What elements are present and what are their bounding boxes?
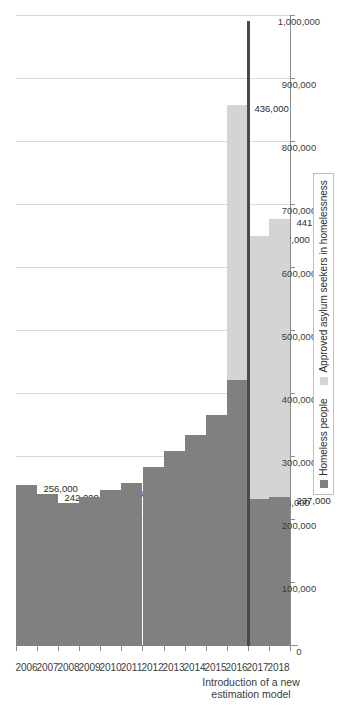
category-axis-tick (227, 646, 228, 651)
value-axis-tick-label: 300,000 (282, 457, 316, 468)
bar-segment (37, 494, 58, 646)
bar-segment (248, 236, 269, 499)
estimation-model-break-line (247, 21, 250, 646)
bar-segment (248, 499, 269, 646)
legend-label: Approved asylum seekers in homelessness (318, 180, 329, 372)
bar-value-label: 237,000 (296, 494, 330, 505)
category-axis-tick (206, 646, 207, 651)
category-axis-tick (16, 646, 17, 651)
annotation-line-1: Introduction of a new (185, 676, 317, 688)
category-axis-tick (58, 646, 59, 651)
bar-row (185, 16, 206, 646)
bar-segment (121, 483, 142, 646)
bar-segment (185, 435, 206, 646)
value-axis-tick-label: 200,000 (282, 520, 316, 531)
bar-row (164, 16, 185, 646)
value-axis-tick-label: 400,000 (282, 394, 316, 405)
category-axis-tick (269, 646, 270, 651)
legend-swatch-icon (320, 480, 328, 488)
category-label-2018: 2018 (262, 662, 296, 673)
bar-row (143, 16, 164, 646)
category-axis-tick (37, 646, 38, 651)
value-axis-tick-label: 600,000 (282, 268, 316, 279)
legend-swatch-icon (320, 377, 328, 385)
bar-row (248, 16, 269, 646)
value-axis-tick-label: 700,000 (282, 205, 316, 216)
category-axis-tick (248, 646, 249, 651)
bar-row (16, 16, 37, 646)
legend-item-1[interactable]: Approved asylum seekers in homelessness (318, 180, 329, 384)
value-axis-tick-label: 900,000 (282, 79, 316, 90)
category-axis-tick (142, 646, 143, 651)
legend-label: Homeless people (318, 399, 329, 476)
value-axis-tick-label: 0 (296, 646, 301, 657)
bar-row (121, 16, 142, 646)
bar-segment (269, 219, 290, 497)
category-axis-tick (79, 646, 80, 651)
category-axis-tick (100, 646, 101, 651)
bar-row (227, 16, 248, 646)
bar-segment (16, 485, 37, 646)
bar-row (206, 16, 227, 646)
bar-segment (227, 380, 248, 646)
chart-figure: 256,000242,000227,000237,000248,000258,0… (0, 0, 343, 706)
category-axis-tick (164, 646, 165, 651)
bar-row (37, 16, 58, 646)
value-axis-tick-label: 500,000 (282, 331, 316, 342)
bar-segment (227, 105, 248, 380)
rotated-figure-wrapper: 256,000242,000227,000237,000248,000258,0… (0, 0, 343, 706)
bar-row (79, 16, 100, 646)
bar-segment (206, 415, 227, 646)
bar-segment (100, 490, 121, 646)
category-axis-tick (121, 646, 122, 651)
bar-segment (164, 451, 185, 646)
chart-legend: Homeless peopleApproved asylum seekers i… (313, 173, 334, 495)
value-axis-tick-label: 100,000 (282, 583, 316, 594)
bar-row (58, 16, 79, 646)
bar-segment (79, 497, 100, 646)
category-axis-tick (185, 646, 186, 651)
value-axis-tick-label: 800,000 (282, 142, 316, 153)
bar-row (100, 16, 121, 646)
annotation-text: Introduction of a new estimation model (185, 676, 317, 700)
bar-segment (143, 467, 164, 646)
annotation-line-2: estimation model (185, 688, 317, 700)
legend-item-0[interactable]: Homeless people (318, 399, 329, 488)
bar-segment (58, 503, 79, 646)
value-axis-tick-label: 1,000,000 (278, 16, 320, 27)
category-axis-tick (290, 646, 291, 651)
